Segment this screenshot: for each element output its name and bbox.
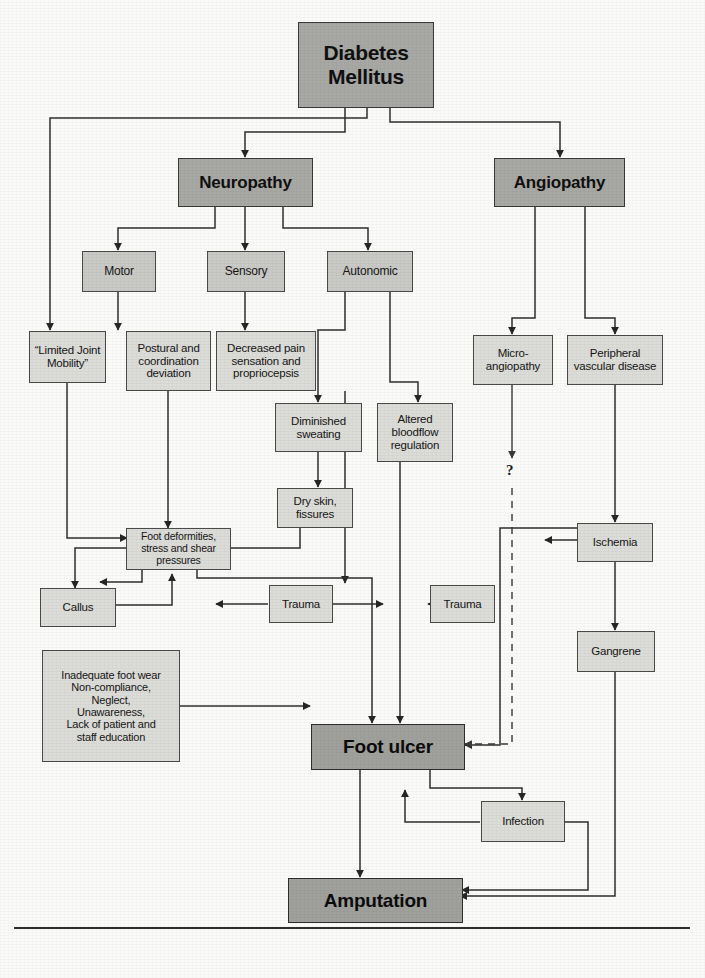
node-amputation[interactable]: Amputation bbox=[288, 878, 463, 923]
node-postural-line1: Postural and bbox=[137, 342, 199, 355]
node-trauma-left[interactable]: Trauma bbox=[269, 585, 333, 623]
node-limited-joint-mobility[interactable]: “Limited Joint Mobility” bbox=[29, 331, 106, 383]
node-micro-angiopathy[interactable]: Micro- angiopathy bbox=[473, 335, 553, 385]
node-ischemia[interactable]: Ischemia bbox=[577, 523, 653, 562]
node-infection-label: Infection bbox=[502, 815, 544, 828]
node-decreased-pain-line3: propriocepsis bbox=[233, 367, 299, 380]
node-foot-ulcer-label: Foot ulcer bbox=[343, 736, 433, 757]
node-micro-angiopathy-line1: Micro- bbox=[498, 347, 529, 360]
node-behaviour-line1: Inadequate foot wear bbox=[61, 669, 160, 681]
node-postural-line3: deviation bbox=[146, 367, 190, 380]
node-trauma-right[interactable]: Trauma bbox=[430, 585, 495, 623]
node-angiopathy[interactable]: Angiopathy bbox=[494, 158, 625, 207]
node-behaviour-line6: staff education bbox=[77, 731, 145, 743]
node-trauma-right-label: Trauma bbox=[444, 598, 482, 611]
node-altered-bloodflow-line2: bloodflow bbox=[392, 426, 439, 439]
node-ljm-line2: Mobility” bbox=[47, 357, 88, 370]
node-behaviour-line4: Unawareness, bbox=[77, 706, 145, 718]
node-gangrene[interactable]: Gangrene bbox=[577, 631, 655, 672]
node-foot-ulcer[interactable]: Foot ulcer bbox=[311, 724, 465, 770]
node-diminished-sweating-line2: sweating bbox=[297, 428, 341, 441]
node-altered-bloodflow-regulation[interactable]: Altered bloodflow regulation bbox=[377, 403, 453, 462]
node-behaviour-line3: Neglect, bbox=[92, 694, 131, 706]
node-behaviour-line5: Lack of patient and bbox=[66, 718, 155, 730]
node-foot-deformities[interactable]: Foot deformities, stress and shear press… bbox=[126, 528, 231, 570]
diagram-page: Diabetes Mellitus Neuropathy Angiopathy … bbox=[0, 0, 705, 978]
node-neuropathy-label: Neuropathy bbox=[199, 173, 291, 192]
node-callus[interactable]: Callus bbox=[40, 588, 116, 627]
node-sensory[interactable]: Sensory bbox=[207, 251, 285, 292]
node-angiopathy-label: Angiopathy bbox=[514, 173, 606, 192]
node-altered-bloodflow-line1: Altered bbox=[397, 413, 432, 426]
node-neuropathy[interactable]: Neuropathy bbox=[178, 158, 313, 207]
node-foot-deformities-line3: pressures bbox=[156, 555, 200, 567]
node-diabetes-mellitus[interactable]: Diabetes Mellitus bbox=[298, 22, 434, 108]
node-behavioural-factors[interactable]: Inadequate foot wear Non-compliance, Neg… bbox=[42, 650, 180, 762]
node-diminished-sweating[interactable]: Diminished sweating bbox=[275, 403, 362, 452]
node-diminished-sweating-line1: Diminished bbox=[291, 415, 346, 428]
node-behaviour-line2: Non-compliance, bbox=[71, 681, 151, 693]
question-mark-glyph: ? bbox=[506, 462, 514, 478]
node-micro-angiopathy-line2: angiopathy bbox=[486, 360, 540, 373]
node-ischemia-label: Ischemia bbox=[593, 536, 637, 549]
node-amputation-label: Amputation bbox=[324, 890, 428, 911]
node-callus-label: Callus bbox=[63, 601, 94, 614]
node-autonomic[interactable]: Autonomic bbox=[327, 251, 413, 292]
node-autonomic-label: Autonomic bbox=[343, 265, 398, 278]
node-dry-skin-line1: Dry skin, bbox=[294, 495, 337, 508]
node-postural-line2: coordination bbox=[138, 355, 198, 368]
node-decreased-pain-line2: sensation and bbox=[231, 355, 300, 368]
node-diabetes-line1: Diabetes bbox=[323, 41, 408, 65]
node-pvd-line1: Peripheral bbox=[590, 347, 640, 360]
node-ljm-line1: “Limited Joint bbox=[35, 344, 101, 357]
node-sensory-label: Sensory bbox=[225, 265, 268, 278]
node-postural-coordination-deviation[interactable]: Postural and coordination deviation bbox=[126, 331, 211, 391]
node-peripheral-vascular-disease[interactable]: Peripheral vascular disease bbox=[567, 335, 663, 385]
node-trauma-left-label: Trauma bbox=[282, 598, 320, 611]
node-decreased-pain-line1: Decreased pain bbox=[227, 342, 305, 355]
node-gangrene-label: Gangrene bbox=[591, 645, 641, 658]
node-motor-label: Motor bbox=[104, 265, 134, 278]
uncertain-link-question-mark: ? bbox=[506, 462, 514, 479]
node-dry-skin-line2: fissures bbox=[296, 508, 334, 521]
node-altered-bloodflow-line3: regulation bbox=[391, 439, 440, 452]
node-pvd-line2: vascular disease bbox=[574, 360, 656, 373]
node-diabetes-line2: Mellitus bbox=[328, 65, 404, 89]
node-motor[interactable]: Motor bbox=[82, 251, 156, 292]
node-infection[interactable]: Infection bbox=[481, 801, 565, 842]
node-decreased-pain-sensation[interactable]: Decreased pain sensation and proprioceps… bbox=[216, 331, 316, 391]
node-dry-skin-fissures[interactable]: Dry skin, fissures bbox=[277, 488, 353, 528]
